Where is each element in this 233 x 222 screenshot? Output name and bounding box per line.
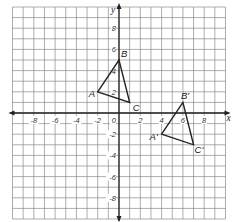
y-tick-label: 2 bbox=[111, 88, 117, 97]
vertex-label-b: B bbox=[121, 48, 128, 59]
vertex-label-c: C bbox=[133, 102, 140, 113]
y-tick-label: -4 bbox=[109, 151, 116, 160]
y-axis-up-arrow-icon bbox=[117, 3, 122, 9]
vertex-label-a: A bbox=[88, 88, 95, 99]
x-tick-label: -4 bbox=[73, 116, 80, 125]
y-tick-label: 6 bbox=[112, 45, 117, 54]
y-tick-label: -8 bbox=[109, 194, 116, 203]
vertex-labels: ABCA'B'C' bbox=[88, 48, 205, 155]
x-tick-label: -2 bbox=[94, 116, 101, 125]
coordinate-plane: xy-8-6-4-224688642-2-4-6-80 ABCA'B'C' bbox=[0, 0, 233, 222]
x-tick-label: 4 bbox=[160, 116, 164, 125]
x-tick-label: 2 bbox=[137, 116, 143, 125]
vertex-label-b-prime: B' bbox=[181, 90, 190, 101]
x-axis-left-arrow-icon bbox=[9, 111, 15, 116]
y-tick-label: -6 bbox=[109, 173, 116, 182]
y-tick-label: -2 bbox=[109, 130, 116, 139]
x-tick-label: -8 bbox=[30, 116, 37, 125]
y-tick-label: 8 bbox=[112, 24, 117, 33]
y-axis-label: y bbox=[110, 5, 116, 15]
vertex-label-c-prime: C' bbox=[195, 144, 205, 155]
x-tick-label: -6 bbox=[52, 116, 59, 125]
x-axis-label: x bbox=[226, 113, 232, 123]
axes bbox=[9, 3, 231, 222]
vertex-label-a-prime: A' bbox=[149, 131, 159, 142]
tick-labels: xy-8-6-4-224688642-2-4-6-80 bbox=[29, 5, 232, 203]
